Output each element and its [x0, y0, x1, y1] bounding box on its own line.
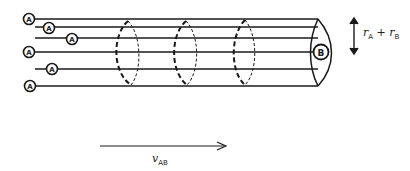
- velocity-label: vAB: [152, 152, 168, 167]
- molecule-a-letter: A: [49, 66, 55, 74]
- velocity-arrow: [100, 142, 226, 150]
- molecule-a-letter: A: [26, 49, 32, 57]
- collision-cylinder-diagram: A A A A A A B rA + rB vAB: [0, 0, 410, 171]
- molecule-a-letter: A: [69, 36, 75, 44]
- cross-section-2: [174, 21, 197, 85]
- radius-arrow: [350, 18, 358, 54]
- cross-section-1: [116, 21, 139, 85]
- molecule-a-letter: A: [26, 16, 32, 24]
- molecule-a-letter: A: [27, 83, 33, 91]
- molecule-a-letter: A: [46, 25, 52, 33]
- radius-label: rA + rB: [363, 26, 399, 41]
- diagram-canvas: A A A A A A B: [0, 0, 410, 171]
- molecule-b-letter: B: [318, 48, 325, 58]
